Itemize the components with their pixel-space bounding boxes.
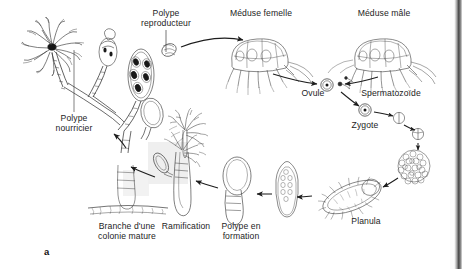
label-polype-en-formation: Polype en formation (205, 221, 277, 241)
arrow-colonie-to-polype (114, 134, 126, 148)
label-ovule: Ovule (288, 88, 338, 98)
label-polype-nourricier: Polype nourricier (32, 113, 116, 133)
label-meduse-male: Méduse mâle (330, 8, 438, 18)
zygote-drawing (359, 104, 371, 116)
figure-panel-marker: a (44, 246, 49, 257)
polype-reproducteur-drawing (118, 41, 178, 131)
arrow-2cell-to-4cell (404, 125, 415, 130)
polype-secondaire-drawing (88, 29, 117, 97)
substrat-stolon (88, 165, 168, 215)
bourgeon-lateral (150, 150, 173, 177)
bourgeon-developpement-drawing (138, 96, 166, 140)
label-polype-reproducteur: Polype reproducteur (118, 8, 214, 28)
arrow-zygote-to-2cell (374, 112, 393, 116)
label-spermatozoide: Spermatozoïde (341, 88, 441, 98)
morula-drawing (398, 150, 430, 184)
figure-canvas: Polype reproducteur Méduse femelle Médus… (0, 0, 462, 269)
scan-edge-artifact (453, 0, 462, 269)
label-zygote: Zygote (333, 120, 397, 130)
polype-en-formation-drawing (223, 157, 251, 225)
arrow-morula-to-planula (383, 178, 398, 187)
arrow-femelle-to-ovule (273, 74, 317, 84)
polype-nourricier-drawing (21, 17, 84, 89)
arrow-planula-to-fixee (297, 196, 312, 197)
polype-touffu-drawing (168, 108, 208, 158)
leader-lines (74, 30, 166, 112)
meduse-femelle-drawing (226, 39, 313, 95)
arrow-ramification-to-colonie (131, 167, 155, 177)
bourgeon-meduse (160, 41, 179, 59)
planula-fixee-drawing (276, 162, 299, 218)
meduse-male-drawing (328, 39, 436, 95)
label-planula: Planula (330, 216, 402, 226)
ramification-drawing (150, 130, 206, 216)
label-meduse-femelle: Méduse femelle (205, 8, 317, 18)
arrow-polype-to-meduse (181, 38, 243, 47)
arrow-formation-to-ramification (196, 181, 218, 188)
